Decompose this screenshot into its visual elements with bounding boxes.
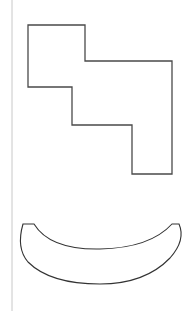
staircase-polygon bbox=[28, 25, 172, 174]
drawing-canvas bbox=[0, 0, 189, 311]
crescent-shape bbox=[20, 224, 181, 284]
